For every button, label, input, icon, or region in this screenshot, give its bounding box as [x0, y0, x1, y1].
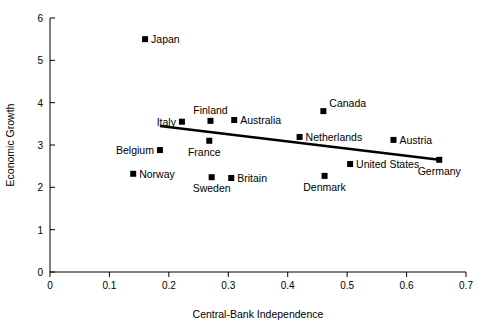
data-point-label: Belgium [116, 144, 154, 156]
x-axis-ticks: 00.10.20.30.40.50.60.7 [47, 272, 473, 291]
data-point-label: Sweden [193, 182, 231, 194]
x-tick-label: 0.7 [459, 280, 473, 291]
plot-area: 00.10.20.30.40.50.60.7 0123456 JapanCana… [0, 0, 493, 327]
x-tick-label: 0.1 [102, 280, 116, 291]
data-point-marker [130, 171, 136, 177]
x-axis-title: Central-Bank Independence [193, 308, 324, 320]
data-point-marker [206, 138, 212, 144]
x-tick-label: 0.6 [400, 280, 414, 291]
data-point-label: Finland [193, 104, 228, 116]
data-point-marker [207, 118, 213, 124]
x-tick-label: 0.4 [281, 280, 295, 291]
data-point-marker [142, 36, 148, 42]
data-point-label: France [188, 146, 221, 158]
y-axis-ticks: 0123456 [37, 13, 55, 278]
y-axis-title: Economic Growth [4, 103, 16, 186]
data-point-label: Canada [329, 97, 366, 109]
data-point-marker [179, 119, 185, 125]
data-point-label: Denmark [303, 181, 346, 193]
data-point-marker [157, 147, 163, 153]
y-tick-label: 4 [37, 98, 43, 109]
data-point-label: Britain [237, 172, 267, 184]
data-point-label: Austria [399, 134, 432, 146]
data-point-marker [436, 157, 442, 163]
data-point-marker [297, 134, 303, 140]
data-point-label: United States [356, 158, 419, 170]
y-tick-label: 1 [37, 225, 43, 236]
data-point-marker [231, 117, 237, 123]
data-point-marker [320, 108, 326, 114]
x-tick-label: 0.3 [221, 280, 235, 291]
y-tick-label: 6 [37, 13, 43, 24]
data-point-marker [347, 161, 353, 167]
data-point-label: Australia [240, 114, 281, 126]
x-tick-label: 0.5 [340, 280, 354, 291]
data-point-labels: JapanCanadaFinlandItalyAustraliaNetherla… [116, 33, 462, 194]
data-point-label: Italy [157, 116, 177, 128]
data-point-marker [390, 137, 396, 143]
data-point-marker [228, 175, 234, 181]
data-point-marker [322, 173, 328, 179]
x-tick-label: 0 [47, 280, 53, 291]
data-point-label: Japan [151, 33, 180, 45]
y-tick-label: 5 [37, 55, 43, 66]
y-tick-label: 3 [37, 140, 43, 151]
data-point-label: Netherlands [306, 131, 363, 143]
data-point-marker [209, 174, 215, 180]
y-tick-label: 2 [37, 182, 43, 193]
y-tick-label: 0 [37, 267, 43, 278]
data-point-label: Germany [418, 165, 462, 177]
x-tick-label: 0.2 [162, 280, 176, 291]
data-point-label: Norway [139, 168, 175, 180]
scatter-chart: 00.10.20.30.40.50.60.7 0123456 JapanCana… [0, 0, 493, 327]
